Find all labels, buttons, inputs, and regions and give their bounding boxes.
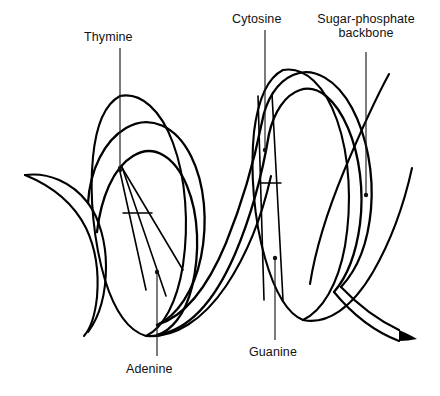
sugar-phosphate-backbone-strand-b bbox=[92, 69, 412, 336]
leader-dot-thymine bbox=[118, 168, 122, 172]
leader-dot-adenine bbox=[155, 270, 159, 274]
dna-double-helix-diagram bbox=[0, 0, 440, 396]
ribbon-tail-right-lower bbox=[334, 292, 399, 341]
ribbon-b-right-outer bbox=[283, 69, 349, 320]
sugar-phosphate-backbone-strand-a bbox=[25, 72, 417, 341]
leader-dot-cytosine bbox=[263, 148, 267, 152]
leader-dot-guanine bbox=[273, 256, 277, 260]
ribbon-tail-left-lower bbox=[25, 175, 98, 336]
leader-dot-sugar-phosphate-backbone bbox=[364, 193, 368, 197]
label-thymine: Thymine bbox=[84, 30, 133, 44]
base-pair-left-thymine-adenine bbox=[119, 166, 183, 296]
label-sugar-phosphate-backbone: Sugar-phosphate backbone bbox=[310, 12, 422, 40]
ribbon-tail-right-tip bbox=[399, 330, 417, 341]
label-guanine: Guanine bbox=[249, 345, 297, 359]
label-sugar-phosphate-backbone-line2: backbone bbox=[338, 26, 393, 40]
ribbon-b-crossover bbox=[146, 176, 271, 336]
label-cytosine: Cytosine bbox=[232, 12, 281, 26]
label-sugar-phosphate-backbone-line1: Sugar-phosphate bbox=[317, 12, 414, 26]
label-adenine: Adenine bbox=[126, 362, 173, 376]
base-line-right-b bbox=[272, 94, 283, 300]
ribbon-a-left-loop-outer bbox=[88, 122, 205, 325]
